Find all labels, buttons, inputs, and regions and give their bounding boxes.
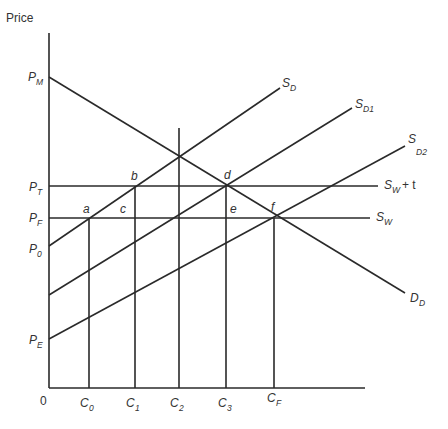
svg-text:1: 1 — [135, 403, 140, 413]
price-label-p0: P 0 — [29, 242, 42, 259]
quantity-label-c2: C 2 — [170, 396, 184, 413]
svg-text:3: 3 — [227, 403, 232, 413]
svg-text:0: 0 — [37, 249, 42, 259]
quantity-label-cf: C F — [267, 391, 282, 408]
price-label-pm: P M — [28, 70, 44, 87]
curve-label-sd1: S D1 — [355, 97, 374, 114]
svg-text:S: S — [384, 178, 392, 192]
quantity-label-c0: C 0 — [80, 396, 94, 413]
svg-text:D: D — [290, 83, 296, 93]
svg-text:C: C — [170, 396, 179, 410]
svg-text:+ t: + t — [402, 178, 416, 192]
point-label-f: f — [271, 200, 276, 214]
svg-text:D: D — [410, 291, 419, 305]
svg-text:P: P — [29, 211, 37, 225]
svg-text:S: S — [408, 132, 416, 146]
svg-text:P: P — [28, 70, 36, 84]
svg-text:F: F — [37, 218, 43, 228]
curve-label-sd: S D — [282, 76, 296, 93]
svg-text:P: P — [29, 180, 37, 194]
origin-label: 0 — [40, 394, 47, 408]
svg-text:2: 2 — [178, 403, 184, 413]
point-label-c: c — [120, 202, 126, 216]
supply-curve-sd1 — [49, 108, 352, 295]
svg-text:P: P — [29, 242, 37, 256]
point-label-d: d — [224, 168, 231, 182]
svg-text:C: C — [126, 396, 135, 410]
price-label-pe: P E — [29, 333, 43, 350]
svg-text:D1: D1 — [363, 104, 374, 114]
quantity-label-c1: C 1 — [126, 396, 140, 413]
curve-label-dd: D D — [410, 291, 425, 308]
svg-text:W: W — [392, 185, 401, 195]
svg-text:E: E — [37, 340, 43, 350]
curve-label-sd2: S D2 — [408, 132, 427, 157]
svg-text:S: S — [355, 97, 363, 111]
price-label-pf: P F — [29, 211, 43, 228]
svg-text:M: M — [36, 77, 44, 87]
svg-text:0: 0 — [89, 403, 94, 413]
price-label-pt: P T — [29, 180, 43, 197]
svg-text:S: S — [376, 210, 384, 224]
supply-demand-diagram: Price 0 P M P T P F P 0 P E C 0 C 1 C 2 … — [0, 0, 448, 429]
svg-text:W: W — [384, 217, 393, 227]
y-axis-label: Price — [6, 11, 34, 25]
svg-text:D2: D2 — [416, 147, 427, 157]
svg-text:P: P — [29, 333, 37, 347]
curve-label-sw: S W — [376, 210, 393, 227]
supply-curve-sd — [49, 88, 280, 246]
svg-text:S: S — [282, 76, 290, 90]
svg-text:C: C — [267, 391, 276, 405]
svg-text:T: T — [37, 187, 43, 197]
point-label-a: a — [83, 202, 90, 216]
svg-text:C: C — [218, 396, 227, 410]
point-label-e: e — [230, 202, 237, 216]
quantity-label-c3: C 3 — [218, 396, 232, 413]
svg-text:F: F — [276, 398, 282, 408]
curve-label-sw-plus-t: S W + t — [384, 178, 416, 195]
point-label-b: b — [131, 169, 138, 183]
svg-text:D: D — [419, 298, 425, 308]
svg-text:C: C — [80, 396, 89, 410]
